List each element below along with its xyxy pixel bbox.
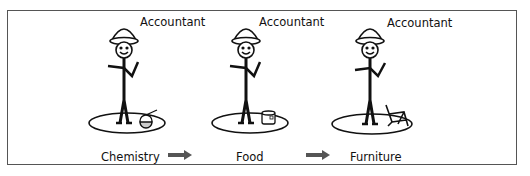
diagram-canvas (0, 0, 530, 176)
arrow-right-1 (168, 150, 192, 160)
stick-figure-2 (212, 29, 288, 133)
arrow-right-2 (306, 150, 330, 160)
flask-icon (140, 110, 157, 128)
can-icon (262, 111, 275, 124)
stick-figure-1 (89, 29, 165, 133)
